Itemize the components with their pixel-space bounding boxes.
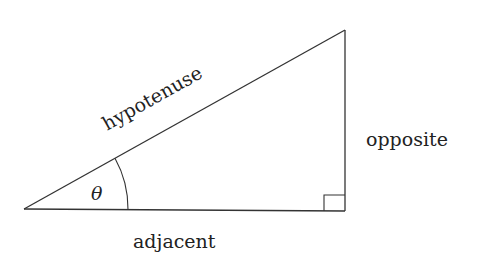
right-angle-marker <box>324 195 345 211</box>
opposite-label: opposite <box>366 128 448 150</box>
angle-arc <box>115 158 128 209</box>
hypotenuse-side <box>24 30 345 209</box>
hypotenuse-label: hypotenuse <box>98 61 206 134</box>
angle-label-theta: θ <box>91 182 103 204</box>
adjacent-side <box>24 209 345 211</box>
adjacent-label: adjacent <box>133 230 216 252</box>
right-triangle-diagram: θ hypotenuse opposite adjacent <box>0 0 477 267</box>
